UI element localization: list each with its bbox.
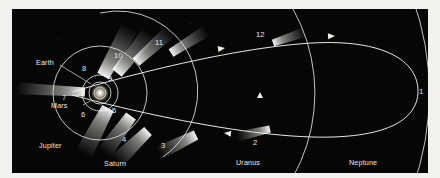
star-field-plate: Earth Mars Jupiter Saturn Uranus Neptune… bbox=[12, 9, 428, 173]
direction-arrow-inbound-orbit bbox=[257, 92, 263, 98]
comet-position-9: 9 bbox=[108, 74, 112, 83]
planet-label-uranus: Uranus bbox=[236, 158, 260, 167]
comet-position-7: 7 bbox=[62, 93, 66, 102]
planet-label-jupiter: Jupiter bbox=[39, 141, 62, 150]
planet-label-mars: Mars bbox=[51, 101, 68, 110]
comet-position-8: 8 bbox=[82, 64, 86, 73]
comet-position-5: 5 bbox=[112, 106, 116, 115]
comet-position-4: 4 bbox=[122, 135, 126, 144]
planet-label-neptune: Neptune bbox=[349, 158, 377, 167]
comet-position-3: 3 bbox=[161, 141, 165, 150]
sun-marker bbox=[91, 84, 109, 102]
comet-position-1: 1 bbox=[419, 87, 423, 96]
orbit-diagram: Earth Mars Jupiter Saturn Uranus Neptune… bbox=[12, 9, 428, 173]
comet-position-12: 12 bbox=[256, 30, 264, 39]
direction-arrow-outbound-far bbox=[328, 33, 335, 39]
comet-position-10: 10 bbox=[114, 51, 122, 60]
comet-position-6: 6 bbox=[81, 110, 85, 119]
comet-position-11: 11 bbox=[155, 38, 163, 47]
figure-plate-page: Earth Mars Jupiter Saturn Uranus Neptune… bbox=[0, 0, 440, 178]
planet-label-saturn: Saturn bbox=[104, 159, 126, 168]
planet-label-earth: Earth bbox=[36, 58, 54, 67]
comet-position-2: 2 bbox=[253, 138, 257, 147]
leader-line-earth bbox=[60, 65, 91, 84]
direction-arrow-inbound-lower bbox=[224, 130, 232, 137]
direction-arrow-outbound-upper bbox=[218, 45, 226, 52]
